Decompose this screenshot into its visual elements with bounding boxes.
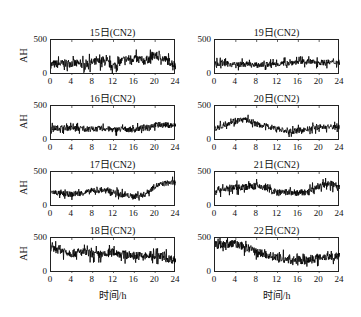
x-tick-label: 16 — [293, 76, 302, 86]
x-tick-label: 24 — [171, 274, 180, 284]
x-tick-label: 20 — [150, 274, 159, 284]
x-axis-label: 时间/h — [214, 287, 339, 302]
plot-area — [50, 237, 175, 272]
x-tick-label: 20 — [150, 142, 159, 152]
x-tick-label: 24 — [335, 274, 344, 284]
x-tick-label: 20 — [314, 76, 323, 86]
x-tick-label: 0 — [48, 142, 53, 152]
subplot-title: 17日(CN2) — [50, 156, 175, 171]
x-tick-label: 12 — [272, 142, 281, 152]
x-tick-label: 16 — [293, 208, 302, 218]
x-tick-label: 20 — [150, 208, 159, 218]
x-tick-label: 4 — [69, 208, 74, 218]
subplot-8: 22日(CN2)500004812162024时间/h — [214, 237, 339, 272]
subplot-title: 16日(CN2) — [50, 90, 175, 105]
subplot-3: 17日(CN2)500004812162024AH — [50, 171, 175, 206]
plot-area — [50, 39, 175, 74]
x-axis-ticks: 04812162024 — [214, 208, 339, 220]
plot-area — [214, 171, 339, 206]
x-tick-label: 20 — [314, 142, 323, 152]
x-axis-ticks: 04812162024 — [214, 274, 339, 286]
y-tick-label: 500 — [189, 100, 211, 110]
subplot-7: 21日(CN2)500004812162024 — [214, 171, 339, 206]
x-tick-label: 24 — [171, 142, 180, 152]
y-axis-label: AH — [18, 107, 29, 137]
x-tick-label: 16 — [293, 274, 302, 284]
y-tick-label: 500 — [189, 34, 211, 44]
subplot-title: 15日(CN2) — [50, 24, 175, 39]
x-tick-label: 0 — [48, 274, 53, 284]
x-tick-label: 24 — [171, 76, 180, 86]
x-tick-label: 16 — [129, 274, 138, 284]
x-tick-label: 24 — [335, 142, 344, 152]
subplot-title: 22日(CN2) — [214, 222, 339, 237]
x-axis-ticks: 04812162024 — [214, 142, 339, 154]
x-tick-label: 24 — [171, 208, 180, 218]
x-tick-label: 8 — [253, 208, 258, 218]
subplot-6: 20日(CN2)500004812162024 — [214, 105, 339, 140]
subplot-title: 19日(CN2) — [214, 24, 339, 39]
x-tick-label: 4 — [233, 142, 238, 152]
x-axis-ticks: 04812162024 — [214, 76, 339, 88]
subplot-1: 15日(CN2)500004812162024AH — [50, 39, 175, 74]
y-axis-label: AH — [18, 239, 29, 269]
y-tick-label: 0 — [189, 266, 211, 276]
x-tick-label: 4 — [233, 76, 238, 86]
plot-area — [50, 105, 175, 140]
subplot-title: 18日(CN2) — [50, 222, 175, 237]
x-tick-label: 12 — [272, 208, 281, 218]
x-tick-label: 0 — [48, 208, 53, 218]
x-tick-label: 16 — [129, 208, 138, 218]
x-tick-label: 24 — [335, 76, 344, 86]
plot-area — [214, 237, 339, 272]
subplot-title: 21日(CN2) — [214, 156, 339, 171]
x-tick-label: 0 — [212, 76, 217, 86]
x-tick-label: 8 — [253, 76, 258, 86]
x-tick-label: 8 — [89, 274, 94, 284]
x-tick-label: 4 — [233, 208, 238, 218]
x-tick-label: 16 — [129, 76, 138, 86]
subplot-5: 19日(CN2)500004812162024 — [214, 39, 339, 74]
x-tick-label: 8 — [253, 274, 258, 284]
y-tick-label: 0 — [189, 134, 211, 144]
x-tick-label: 24 — [335, 208, 344, 218]
subplot-title: 20日(CN2) — [214, 90, 339, 105]
x-tick-label: 0 — [212, 208, 217, 218]
x-tick-label: 20 — [314, 274, 323, 284]
x-axis-label: 时间/h — [50, 287, 175, 302]
x-axis-ticks: 04812162024 — [50, 208, 175, 220]
x-tick-label: 20 — [314, 208, 323, 218]
plot-area — [50, 171, 175, 206]
x-tick-label: 4 — [69, 274, 74, 284]
x-tick-label: 12 — [108, 142, 117, 152]
x-tick-label: 0 — [212, 274, 217, 284]
x-tick-label: 8 — [89, 142, 94, 152]
plot-area — [214, 105, 339, 140]
x-tick-label: 8 — [89, 208, 94, 218]
y-axis-label: AH — [18, 41, 29, 71]
y-tick-label: 500 — [189, 232, 211, 242]
x-tick-label: 12 — [272, 274, 281, 284]
y-axis-label: AH — [18, 173, 29, 203]
x-axis-ticks: 04812162024 — [50, 142, 175, 154]
x-axis-ticks: 04812162024 — [50, 274, 175, 286]
x-tick-label: 20 — [150, 76, 159, 86]
x-tick-label: 12 — [272, 76, 281, 86]
subplot-2: 16日(CN2)500004812162024AH — [50, 105, 175, 140]
x-tick-label: 8 — [89, 76, 94, 86]
x-tick-label: 8 — [253, 142, 258, 152]
y-tick-label: 0 — [189, 200, 211, 210]
x-tick-label: 12 — [108, 208, 117, 218]
x-tick-label: 4 — [233, 274, 238, 284]
x-tick-label: 0 — [212, 142, 217, 152]
x-axis-ticks: 04812162024 — [50, 76, 175, 88]
y-tick-label: 500 — [189, 166, 211, 176]
x-tick-label: 16 — [129, 142, 138, 152]
y-tick-label: 0 — [189, 68, 211, 78]
x-tick-label: 16 — [293, 142, 302, 152]
x-tick-label: 0 — [48, 76, 53, 86]
x-tick-label: 12 — [108, 76, 117, 86]
x-tick-label: 12 — [108, 274, 117, 284]
subplot-4: 18日(CN2)500004812162024AH时间/h — [50, 237, 175, 272]
x-tick-label: 4 — [69, 76, 74, 86]
